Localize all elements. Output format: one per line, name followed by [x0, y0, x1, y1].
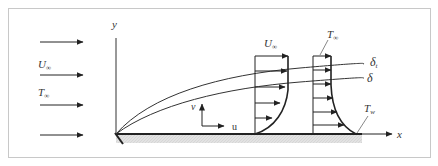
x-axis-label: x [396, 128, 402, 140]
y-axis-label: y [111, 18, 117, 30]
boundary-layer-diagram: U∞ T∞ y x δt δ v u U∞ T∞ Tw [0, 0, 438, 166]
velocity-boundary-layer-label: δ [367, 71, 373, 85]
u-component-label: u [232, 121, 237, 132]
flat-plate [116, 134, 362, 143]
v-component-label: v [191, 101, 196, 112]
